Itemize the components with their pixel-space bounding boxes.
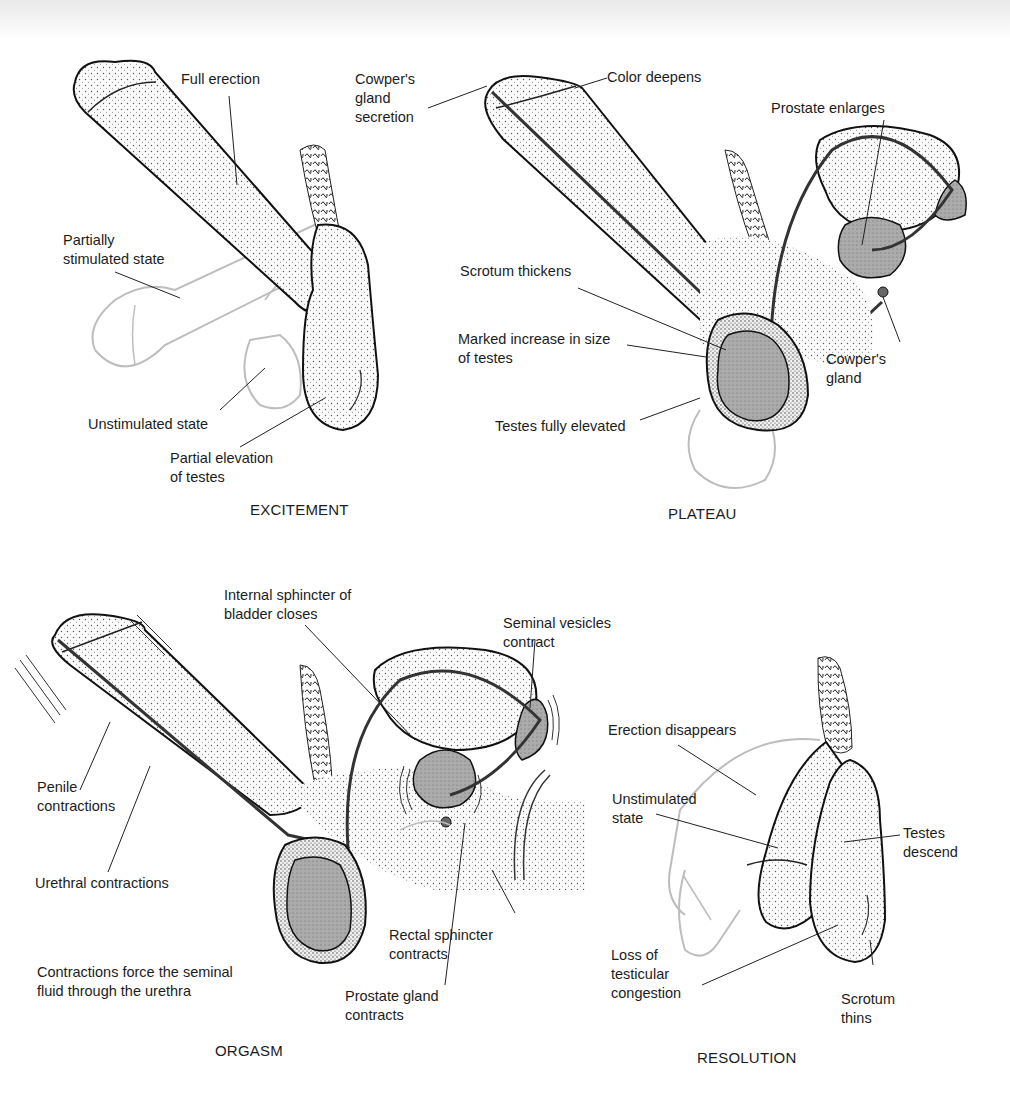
stage-title-excitement: EXCITEMENT xyxy=(250,501,349,518)
label-erection-disappears: Erection disappears xyxy=(608,721,736,740)
label-urethral-contractions: Urethral contractions xyxy=(35,874,169,893)
label-partial-elevation: Partial elevation of testes xyxy=(170,449,273,487)
label-loss-testicular-congestion: Loss of testicular congestion xyxy=(611,946,681,1003)
anatomy-illustrations xyxy=(0,0,1010,1106)
label-scrotum-thickens: Scrotum thickens xyxy=(460,262,571,281)
label-scrotum-thins: Scrotum thins xyxy=(841,990,895,1028)
label-testes-fully-elevated: Testes fully elevated xyxy=(495,417,626,436)
label-cowpers-gland-secretion: Cowper's gland secretion xyxy=(355,70,415,127)
label-prostate-enlarges: Prostate enlarges xyxy=(771,99,885,118)
resolution-illustration xyxy=(669,657,885,962)
label-rectal-sphincter: Rectal sphincter contracts xyxy=(389,926,493,964)
label-unstimulated-state-resolution: Unstimulated state xyxy=(612,790,697,828)
label-testes-descend: Testes descend xyxy=(903,824,958,862)
label-penile-contractions: Penile contractions xyxy=(37,778,115,816)
label-internal-sphincter: Internal sphincter of bladder closes xyxy=(224,586,351,624)
stage-title-orgasm: ORGASM xyxy=(215,1042,283,1059)
label-seminal-vesicles: Seminal vesicles contract xyxy=(503,614,611,652)
label-full-erection: Full erection xyxy=(181,70,260,89)
label-unstimulated-state: Unstimulated state xyxy=(88,415,208,434)
label-color-deepens: Color deepens xyxy=(607,68,701,87)
label-prostate-contracts: Prostate gland contracts xyxy=(345,987,439,1025)
label-marked-increase-testes: Marked increase in size of testes xyxy=(458,330,610,368)
label-cowpers-gland: Cowper's gland xyxy=(826,350,886,388)
stage-title-resolution: RESOLUTION xyxy=(697,1049,797,1066)
stage-title-plateau: PLATEAU xyxy=(668,505,737,522)
label-contractions-force: Contractions force the seminal fluid thr… xyxy=(37,963,233,1001)
label-partially-stimulated: Partially stimulated state xyxy=(63,231,165,269)
